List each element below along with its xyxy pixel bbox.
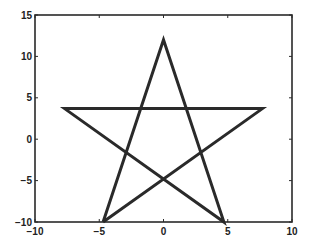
- y-tick-label: 5: [26, 92, 32, 103]
- y-tick-label: 0: [26, 134, 32, 145]
- y-tick-label: −10: [15, 217, 32, 228]
- x-tick-label: 0: [161, 226, 167, 237]
- x-tick-label: −5: [94, 226, 106, 237]
- y-tick-label: −5: [21, 175, 33, 186]
- series-line-star: [65, 40, 263, 222]
- y-tick-label: 15: [21, 10, 33, 21]
- x-tick-label: −10: [27, 226, 44, 237]
- x-tick-label: 5: [225, 226, 231, 237]
- star-plot: −10−50510 −10−5051015: [0, 0, 312, 249]
- y-tick-label: 10: [21, 51, 33, 62]
- axes-frame: [35, 15, 292, 222]
- plot-series: [65, 40, 263, 222]
- x-tick-label: 10: [286, 226, 298, 237]
